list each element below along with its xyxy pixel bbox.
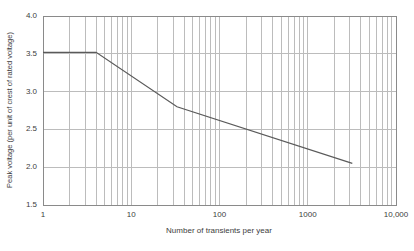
- x-tick-label: 1: [41, 210, 45, 220]
- x-axis-title: Number of transients per year: [166, 226, 272, 235]
- plot-area: [0, 0, 414, 251]
- x-tick-label: 100: [213, 210, 226, 220]
- chart: 110100100010,000 1.52.02.53.03.54.0 Numb…: [0, 0, 414, 251]
- y-axis-title: Peak voltage (per unit of crest of rated…: [5, 32, 14, 188]
- x-tick-label: 1000: [299, 210, 317, 220]
- peak-voltage-limit-curve: [43, 52, 352, 163]
- x-tick-label: 10: [127, 210, 136, 220]
- y-tick-label: 1.5: [0, 200, 37, 210]
- y-tick-label: 4.0: [0, 11, 37, 21]
- x-tick-label: 10,000: [384, 210, 408, 220]
